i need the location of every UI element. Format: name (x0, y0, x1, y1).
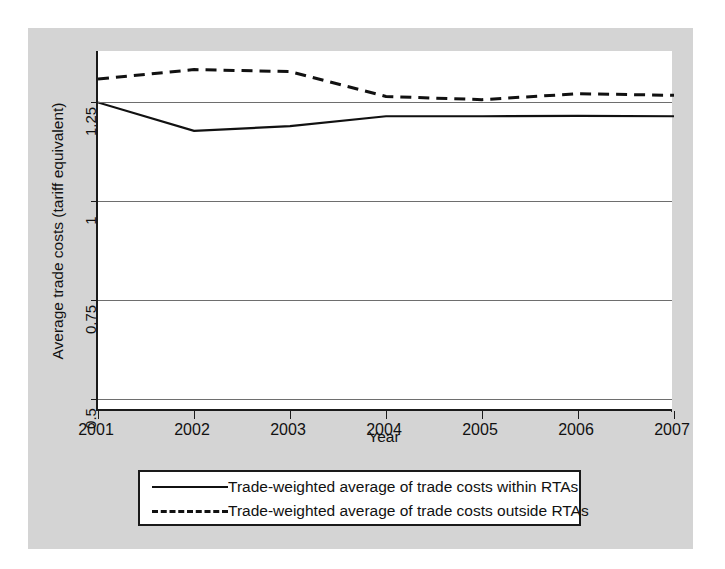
x-tick-2006 (578, 411, 579, 419)
gridline-1 (98, 201, 672, 202)
gridline-1.25 (98, 102, 672, 103)
x-tick-2007 (674, 411, 675, 419)
gridline-0.5 (98, 399, 672, 400)
x-tick-2004 (386, 411, 387, 419)
chart-legend: Trade-weighted average of trade costs wi… (138, 470, 581, 526)
x-tick-2002 (194, 411, 195, 419)
legend-item-within-rtas[interactable]: Trade-weighted average of trade costs wi… (140, 474, 579, 500)
series-line-outside-rtas (98, 70, 674, 100)
y-axis-title: Average trade costs (tariff equivalent) (48, 51, 68, 411)
gridline-0.75 (98, 300, 672, 301)
legend-item-outside-rtas[interactable]: Trade-weighted average of trade costs ou… (140, 498, 579, 524)
series-line-within-rtas (98, 102, 674, 130)
dashed-line-key (152, 504, 228, 518)
y-tick-label-1: 1 (82, 201, 99, 241)
x-tick-2003 (290, 411, 291, 419)
series-lines (98, 51, 674, 411)
x-axis-title: Year (96, 428, 672, 446)
solid-line-key (152, 480, 228, 494)
legend-label-within-rtas: Trade-weighted average of trade costs wi… (228, 478, 578, 496)
plot-area (96, 51, 672, 411)
x-tick-2005 (482, 411, 483, 419)
legend-label-outside-rtas: Trade-weighted average of trade costs ou… (228, 502, 589, 520)
y-tick-label-1.25: 1.25 (82, 102, 99, 142)
figure-background: Average trade costs (tariff equivalent) … (28, 28, 693, 549)
y-tick-label-0.75: 0.75 (82, 300, 99, 340)
